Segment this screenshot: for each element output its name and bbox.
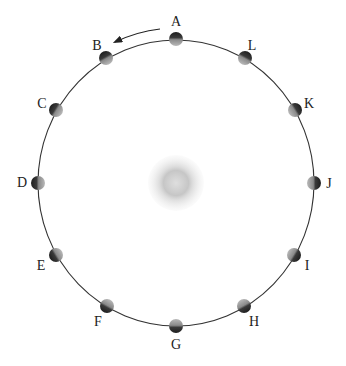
- orbit-direction-arrow: [115, 29, 160, 42]
- moon-label-d: D: [17, 176, 27, 190]
- moon-icon-i: [287, 248, 301, 262]
- moon-label-l: L: [248, 39, 257, 53]
- moon-icon-b: [99, 51, 113, 65]
- moon-label-e: E: [37, 259, 46, 273]
- moon-label-f: F: [94, 315, 102, 329]
- moon-label-c: C: [37, 97, 46, 111]
- diagram-canvas: [0, 0, 346, 366]
- earth: [148, 155, 204, 211]
- moon-phase-diagram: ABCDEFGHIJKL: [0, 0, 346, 366]
- moon-icon-e: [49, 248, 63, 262]
- earth-icon: [148, 155, 204, 211]
- moon-icon-j: [307, 176, 321, 190]
- moon-icon-f: [100, 299, 114, 313]
- moon-icon-c: [49, 103, 63, 117]
- moon-icon-a: [169, 32, 183, 46]
- moon-icon-k: [288, 103, 302, 117]
- moon-label-h: H: [249, 315, 259, 329]
- moon-icon-l: [238, 51, 252, 65]
- moon-icon-d: [31, 176, 45, 190]
- moon-label-a: A: [171, 15, 181, 29]
- moon-label-g: G: [171, 338, 181, 352]
- moon-label-k: K: [304, 97, 314, 111]
- moon-icon-h: [237, 299, 251, 313]
- moon-label-b: B: [92, 39, 101, 53]
- moon-label-i: I: [305, 259, 310, 273]
- arrow-icon: [115, 29, 160, 42]
- moon-icon-g: [169, 319, 183, 333]
- moon-label-j: J: [326, 177, 331, 191]
